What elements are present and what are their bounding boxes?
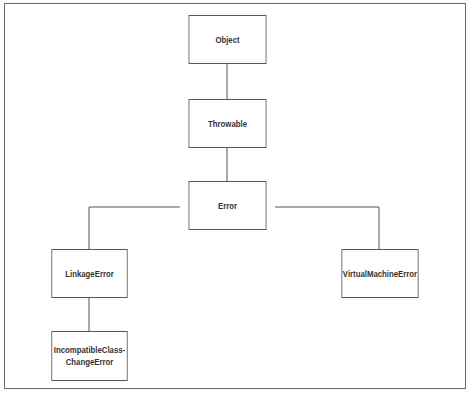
node-virtual-machine-error: VirtualMachineError [341, 249, 418, 298]
node-throwable: Throwable [189, 99, 267, 148]
node-object: Object [189, 15, 267, 64]
node-error-label: Error [218, 200, 237, 212]
node-virtual-machine-error-label: VirtualMachineError [343, 268, 417, 280]
node-error: Error [189, 181, 267, 230]
node-object-label: Object [215, 34, 239, 46]
node-incompatible-class-change-error: IncompatibleClass- ChangeError [51, 331, 127, 381]
node-incompatible-label-line1: IncompatibleClass- [54, 344, 125, 356]
node-linkage-error-label: LinkageError [65, 268, 113, 280]
node-incompatible-label-line2: ChangeError [66, 356, 114, 368]
node-linkage-error: LinkageError [51, 249, 127, 298]
node-throwable-label: Throwable [208, 118, 247, 130]
